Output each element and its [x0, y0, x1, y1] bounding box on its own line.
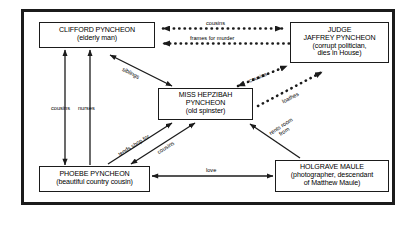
edge-label-phoebe-holgrave-love: love: [206, 167, 216, 173]
edge-clifford-hepzibah-siblings: [110, 55, 172, 86]
node-holgrave-detail-line2: of Matthew Maule): [304, 180, 361, 188]
node-judge-jaffrey-pyncheon[interactable]: JUDGE JAFFREY PYNCHEON (corrupt politici…: [290, 22, 389, 63]
node-hepzibah-detail: (old spinster): [186, 108, 226, 116]
edge-label-clifford-judge-cousins: cousins: [206, 20, 225, 26]
node-miss-hepzibah-pyncheon[interactable]: MISS HEPZIBAH PYNCHEON (old spinster): [158, 88, 253, 120]
node-judge-detail-line2: dies in House): [318, 50, 362, 58]
node-holgrave-maule[interactable]: HOLGRAVE MAULE (photographer, descendant…: [275, 160, 389, 192]
edge-label-judge-clifford-frames: frames for murder: [190, 35, 234, 41]
node-clifford-pyncheon[interactable]: CLIFFORD PYNCHEON (elderly man): [39, 22, 155, 48]
node-phoebe-pyncheon[interactable]: PHOEBE PYNCHEON (beautiful country cousi…: [39, 166, 150, 192]
edge-label-phoebe-clifford-nurses: nurses: [78, 105, 95, 111]
edge-label-phoebe-clifford-cousins: cousins: [51, 105, 70, 111]
node-clifford-detail: (elderly man): [77, 35, 117, 43]
diagram-canvas: CLIFFORD PYNCHEON (elderly man) JUDGE JA…: [0, 0, 417, 236]
node-phoebe-detail: (beautiful country cousin): [56, 179, 133, 187]
